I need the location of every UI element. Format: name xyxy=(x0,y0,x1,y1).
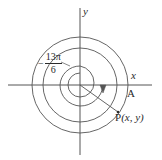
angle-label-leader-line xyxy=(61,62,70,66)
angle-denominator: 6 xyxy=(51,64,56,76)
point-P-coords: (x, y) xyxy=(121,111,144,123)
angle-fraction: 13π 6 xyxy=(45,52,62,75)
sweep-arrowhead-icon xyxy=(100,85,106,93)
point-P-label: P(x, y) xyxy=(115,112,144,123)
x-axis-label: x xyxy=(131,70,136,81)
angle-numerator: 13π xyxy=(45,52,62,64)
angle-diagram-figure: x y A P(x, y) − 13π 6 xyxy=(0,0,162,160)
point-A-label: A xyxy=(127,88,135,99)
angle-negative-sign: − xyxy=(38,59,44,69)
diagram-canvas xyxy=(0,0,162,160)
angle-measure-label: − 13π 6 xyxy=(38,52,62,75)
y-axis-label: y xyxy=(83,6,88,17)
terminal-ray xyxy=(80,85,118,112)
